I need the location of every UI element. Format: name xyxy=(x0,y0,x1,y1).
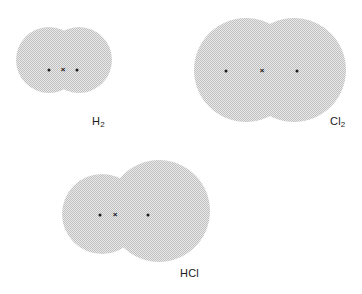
molecular-diagram-figure: H2 Cl2 HCl xyxy=(0,0,362,294)
cloud-lobe-2 xyxy=(108,160,210,262)
electron-cloud-h2 xyxy=(16,24,112,96)
hcl-electron-cross-shared: × xyxy=(113,211,118,219)
cl2-electron-dot-left xyxy=(225,70,228,73)
h2-electron-dot-left xyxy=(48,69,51,72)
h2-electron-cross-shared: × xyxy=(61,66,66,74)
molecule-label-hcl-text: HCl xyxy=(180,267,199,279)
molecule-label-cl2: Cl2 xyxy=(330,116,345,127)
molecule-label-h2-text: H xyxy=(92,115,100,127)
h2-electron-dot-right xyxy=(76,69,79,72)
cl2-electron-cross-shared: × xyxy=(260,67,265,75)
cl2-electron-dot-right xyxy=(296,70,299,73)
molecule-label-h2: H2 xyxy=(92,116,105,127)
electron-cloud-hcl xyxy=(62,160,210,264)
cloud-lobe-2 xyxy=(46,27,112,93)
cloud-lobe-2 xyxy=(242,18,346,122)
hcl-electron-dot-chlorine xyxy=(147,214,150,217)
molecule-hcl xyxy=(62,160,210,264)
molecule-label-h2-subscript: 2 xyxy=(100,120,105,129)
molecule-label-cl2-subscript: 2 xyxy=(341,120,346,129)
molecule-cl2 xyxy=(194,14,346,126)
molecule-label-hcl: HCl xyxy=(180,268,199,279)
molecule-h2 xyxy=(16,24,112,96)
electron-cloud-cl2 xyxy=(194,14,346,126)
hcl-electron-dot-hydrogen xyxy=(99,214,102,217)
molecule-label-cl2-text: Cl xyxy=(330,115,341,127)
